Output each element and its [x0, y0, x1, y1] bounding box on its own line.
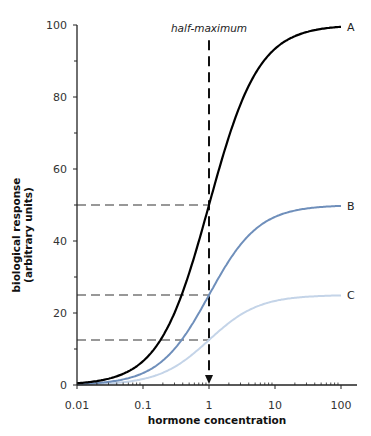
half-maximum-guides — [77, 40, 213, 384]
y-tick-label: 80 — [53, 91, 67, 104]
labels: hormone concentrationbiological response… — [10, 21, 355, 426]
y-tick-label: 40 — [53, 235, 67, 248]
curve-c — [77, 295, 341, 384]
axes: 0204060801000.010.1110100 — [46, 19, 357, 412]
x-tick-label: 0.01 — [65, 399, 90, 412]
x-tick-label: 10 — [268, 399, 282, 412]
half-maximum-label: half-maximum — [171, 22, 247, 34]
series-label-c: C — [347, 289, 355, 302]
x-tick-label: 1 — [206, 399, 213, 412]
y-tick-label: 60 — [53, 163, 67, 176]
x-tick-label: 100 — [331, 399, 352, 412]
series-label-b: B — [347, 200, 355, 213]
x-tick-label: 0.1 — [134, 399, 152, 412]
x-axis-title: hormone concentration — [148, 414, 287, 426]
series-label-a: A — [347, 21, 355, 34]
y-tick-label: 100 — [46, 19, 67, 32]
y-tick-label: 20 — [53, 307, 67, 320]
y-axis-title: biological response(arbitrary units) — [10, 178, 34, 293]
dose-response-chart: 0204060801000.010.1110100 hormone concen… — [0, 0, 371, 436]
y-tick-label: 0 — [60, 379, 67, 392]
